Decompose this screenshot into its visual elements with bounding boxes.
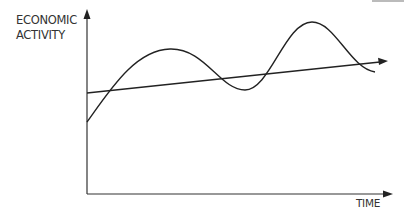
trend-line (87, 58, 388, 93)
x-axis-arrow-icon (383, 191, 393, 198)
trend-arrow-icon (378, 58, 388, 65)
cycle-curve (87, 22, 375, 122)
business-cycle-diagram (0, 0, 404, 212)
x-axis (87, 191, 393, 198)
y-axis-arrow-icon (84, 9, 91, 19)
y-axis (84, 9, 91, 194)
